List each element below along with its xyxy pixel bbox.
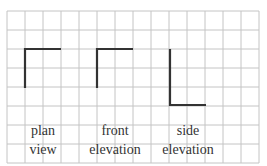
- front-elevation-label-line2: elevation: [89, 142, 140, 157]
- square-grid: [7, 11, 259, 163]
- plan-view-label-line1: plan: [31, 123, 55, 138]
- side-elevation-label-line1: side: [177, 123, 200, 138]
- side-elevation-shape: [170, 49, 206, 105]
- side-elevation-label-line2: elevation: [162, 142, 213, 157]
- front-elevation-label-line1: front: [101, 123, 128, 138]
- orthographic-views-diagram: plan view front elevation side elevation: [0, 0, 267, 166]
- plan-view-label-line2: view: [29, 142, 57, 157]
